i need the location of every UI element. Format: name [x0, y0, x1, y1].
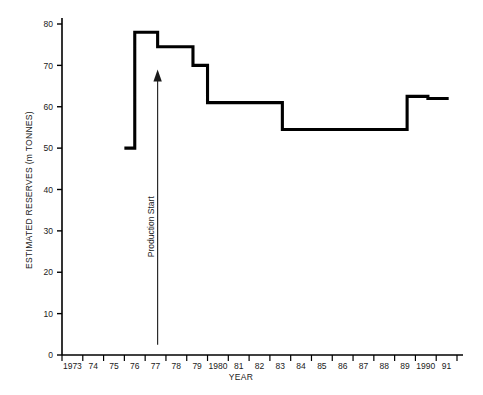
- annotation-label-production-start: Production Start: [146, 196, 156, 258]
- x-axis-tick-label: 87: [359, 361, 369, 371]
- x-axis-tick-label: 81: [234, 361, 244, 371]
- x-axis-tick-label: 76: [130, 361, 140, 371]
- x-axis-tick-label: 89: [400, 361, 410, 371]
- y-axis-tick-label: 20: [44, 267, 54, 277]
- x-axis-tick-label: 74: [88, 361, 98, 371]
- chart-container: 01020304050607080 1973747576777879198081…: [0, 0, 483, 395]
- chart-background: [0, 0, 483, 395]
- x-axis-tick-label: 77: [151, 361, 161, 371]
- y-axis-tick-label: 60: [44, 102, 54, 112]
- y-axis-tick-label: 40: [44, 185, 54, 195]
- y-axis-title: ESTIMATED RESERVES (m TONNES): [24, 111, 34, 269]
- y-axis-tick-label: 10: [44, 309, 54, 319]
- x-axis-tick-label: 82: [255, 361, 265, 371]
- x-axis-tick-label: 83: [276, 361, 286, 371]
- y-axis-tick-label: 80: [44, 19, 54, 29]
- x-axis-tick-label: 78: [172, 361, 182, 371]
- x-axis-tick-label: 75: [109, 361, 119, 371]
- x-axis-tick-label: 91: [442, 361, 452, 371]
- x-axis-tick-label: 1990: [416, 361, 435, 371]
- y-axis-tick-label: 0: [48, 350, 53, 360]
- x-axis-tick-label: 88: [380, 361, 390, 371]
- y-axis-tick-label: 50: [44, 143, 54, 153]
- x-axis-tick-label: 84: [296, 361, 306, 371]
- x-axis-tick-label: 85: [317, 361, 327, 371]
- y-axis-tick-label: 70: [44, 61, 54, 71]
- x-axis-tick-label: 1980: [208, 361, 227, 371]
- x-axis-title: YEAR: [229, 372, 253, 382]
- reserves-step-chart: 01020304050607080 1973747576777879198081…: [0, 0, 483, 395]
- x-axis-tick-label: 1973: [63, 361, 82, 371]
- y-axis-tick-label: 30: [44, 226, 54, 236]
- x-axis-tick-label: 86: [338, 361, 348, 371]
- x-axis-tick-label: 79: [192, 361, 202, 371]
